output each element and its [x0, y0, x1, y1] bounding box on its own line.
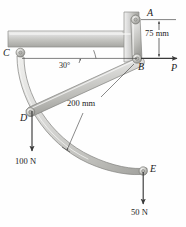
point-label-E: E: [150, 164, 156, 174]
support-bracket: [8, 12, 139, 62]
dim-200-leader-lower: [67, 113, 83, 150]
point-label-D: D: [20, 113, 27, 123]
pin-A-hole: [134, 18, 137, 21]
dimension-label-75mm: 75 mm: [145, 29, 169, 38]
point-label-C: C: [3, 48, 10, 58]
force-label-100N: 100 N: [15, 157, 36, 166]
pin-C-hole: [19, 51, 22, 54]
dimension-label-200mm: 200 mm: [67, 99, 95, 108]
force-label-50N: 50 N: [131, 208, 148, 217]
angle-leader-30: [79, 59, 81, 63]
dimension-75mm: [141, 20, 176, 57]
angle-label-30deg: 30°: [59, 62, 70, 70]
point-label-B: B: [138, 62, 144, 72]
angle-indicator-30: [79, 50, 96, 63]
angle-arc-30: [94, 50, 96, 58]
force-label-P: P: [171, 63, 177, 73]
point-label-A: A: [147, 8, 153, 18]
statics-figure: A B C D E 75 mm 200 mm 30° P 100 N 50 N: [0, 0, 186, 227]
